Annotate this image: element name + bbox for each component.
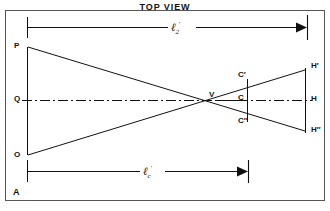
ray-o-to-h-upper (28, 70, 305, 155)
point-label-c-upper: C′ (238, 71, 246, 79)
point-label-p: P (14, 42, 19, 50)
dimension-label-upper: ℓ2′ (171, 21, 180, 36)
point-label-v: V (209, 91, 214, 99)
top-dim-arrowhead (296, 23, 307, 33)
bottom-dim-arrowhead (237, 167, 248, 177)
point-label-h-lower: H″ (311, 126, 321, 134)
point-label-a: A (13, 188, 20, 197)
point-label-c-mid: C (238, 94, 244, 102)
point-label-h-mid: H (311, 95, 317, 103)
top-view-figure: TOP VIEW (0, 0, 330, 211)
ray-p-to-h-lower (28, 47, 305, 131)
point-label-o: O (14, 151, 20, 159)
point-label-h-upper: H′ (311, 62, 319, 70)
dimension-upper-prime: ′ (179, 20, 181, 28)
point-label-c-lower: C″ (238, 117, 248, 125)
dimension-label-lower: ℓc′ (143, 165, 152, 180)
dimension-upper-subscript: 2 (176, 28, 179, 36)
dimension-lower-prime: ′ (150, 164, 152, 172)
dimension-lower-subscript: c (148, 172, 151, 180)
figure-drawing (0, 0, 330, 211)
point-label-q: Q (14, 95, 20, 103)
